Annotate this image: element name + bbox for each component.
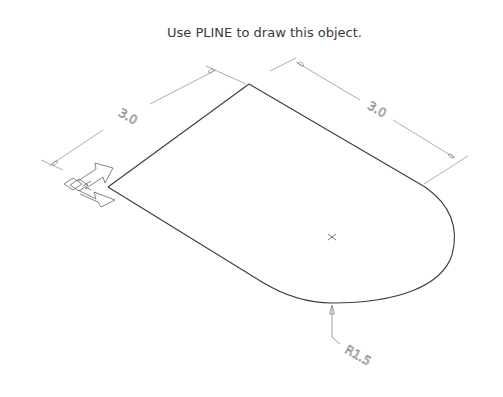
dimension-left-3-0 (41, 66, 246, 170)
ucs-axis-icon (64, 163, 115, 207)
radius-label: R1.5 (343, 342, 374, 368)
dimension-top-3-0 (270, 58, 468, 184)
dimension-left-label: 3.0 (116, 106, 140, 128)
drawing-canvas: 3.0 3.0 R1.5 (0, 0, 503, 397)
rounded-end-arc (332, 187, 454, 303)
top-edge (249, 84, 425, 187)
bottom-edge (108, 187, 332, 303)
object-outline (108, 84, 454, 303)
left-edge (108, 84, 249, 187)
radius-leader (330, 305, 341, 344)
dimension-top-label: 3.0 (365, 99, 389, 121)
center-mark-x (328, 234, 336, 240)
